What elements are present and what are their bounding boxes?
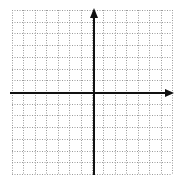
y-axis-arrow-icon <box>90 8 98 18</box>
coordinate-plane <box>0 0 180 184</box>
